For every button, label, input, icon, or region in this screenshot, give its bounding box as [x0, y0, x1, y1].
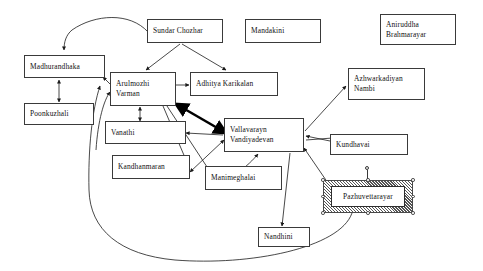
node-label: Kundhavai [336, 140, 404, 150]
resize-handle-e[interactable] [411, 195, 415, 199]
edge-sundar-adhitya [182, 44, 226, 70]
resize-handle-se[interactable] [411, 211, 415, 215]
node-label-line2: Nambi [354, 84, 421, 94]
node-label-line2: Varman [116, 89, 172, 99]
node-label: Adhitya Karikalan [196, 79, 274, 89]
node-label: Nandhini [264, 232, 306, 242]
node-aniruddha-brahmarayar[interactable]: Aniruddha Brahmarayar [380, 14, 456, 45]
node-kandhanmaran[interactable]: Kandhanmaran [112, 155, 190, 179]
node-label-line2: Vandiyadevan [230, 135, 300, 145]
edge-vallavarayn-vanathi [186, 133, 223, 135]
resize-handle-w[interactable] [321, 195, 325, 199]
node-adhitya-karikalan[interactable]: Adhitya Karikalan [190, 72, 278, 96]
node-vallavarayn-vandiyadevan[interactable]: Vallavarayn Vandiyadevan [224, 118, 304, 152]
node-label: Manimeghalai [211, 173, 278, 183]
node-pazhuvettarayar[interactable]: Pazhuvettarayar [331, 186, 405, 207]
node-label: Sundar Chozhar [153, 26, 219, 36]
node-mandakini[interactable]: Mandakini [245, 19, 321, 43]
node-kundhavai[interactable]: Kundhavai [330, 134, 408, 155]
edge-sundar-arulmozhi [146, 44, 180, 70]
node-label: Arulmozhi [116, 79, 172, 89]
edge-vallavarayn-azhwarkadiyan [305, 86, 346, 131]
node-label: Aniruddha [386, 20, 452, 30]
resize-handle-sw[interactable] [321, 211, 325, 215]
node-label: Madhurandhaka [30, 62, 101, 72]
rotation-handle[interactable] [365, 166, 369, 170]
node-label: Azhwarkadiyan [354, 74, 421, 84]
node-sundar-chozhar[interactable]: Sundar Chozhar [147, 19, 223, 43]
node-pazhuvettarayar-selection[interactable]: Pazhuvettarayar [323, 180, 413, 213]
node-label: Poonkuzhali [30, 109, 90, 119]
node-manimeghalai[interactable]: Manimeghalai [205, 166, 282, 190]
node-label-line2: Brahmarayar [386, 30, 452, 40]
diagram-canvas[interactable]: Madhurandhaka Poonkuzhali Sundar Chozhar… [0, 0, 483, 271]
resize-handle-ne[interactable] [411, 178, 415, 182]
node-azhwarkadiyan-nambi[interactable]: Azhwarkadiyan Nambi [348, 68, 425, 100]
node-madhurandhaka[interactable]: Madhurandhaka [24, 55, 105, 78]
node-label: Kandhanmaran [118, 162, 186, 172]
node-label: Vanathi [111, 128, 182, 138]
resize-handle-n[interactable] [366, 178, 370, 182]
edge-vallavarayn-nandhini [282, 153, 290, 226]
resize-handle-s[interactable] [366, 211, 370, 215]
edge-kundhavai-vallavarayn [306, 136, 330, 141]
node-label: Vallavarayn [230, 125, 300, 135]
node-poonkuzhali[interactable]: Poonkuzhali [24, 103, 94, 125]
node-nandhini[interactable]: Nandhini [258, 227, 310, 247]
edge-sundar-madhurandhaka [64, 18, 148, 51]
node-arulmozhi-varman[interactable]: Arulmozhi Varman [110, 72, 176, 106]
node-label: Pazhuvettarayar [343, 192, 393, 201]
node-vanathi[interactable]: Vanathi [105, 121, 186, 144]
resize-handle-nw[interactable] [321, 178, 325, 182]
node-label: Mandakini [251, 26, 317, 36]
